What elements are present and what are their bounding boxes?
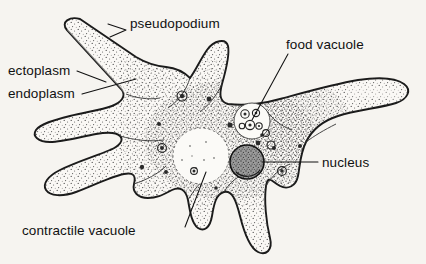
label-ectoplasm: ectoplasm bbox=[8, 63, 70, 78]
contractile-vacuole-circle bbox=[173, 128, 229, 184]
leader-pseudopodium bbox=[108, 24, 126, 37]
label-contractile-vacuole: contractile vacuole bbox=[22, 223, 136, 238]
leader-ectoplasm bbox=[77, 71, 106, 82]
diagram-canvas: pseudopodium food vacuole ectoplasm endo… bbox=[0, 0, 426, 264]
label-endoplasm: endoplasm bbox=[8, 86, 75, 101]
label-food-vacuole: food vacuole bbox=[286, 37, 364, 52]
contractile-vacuole-structure bbox=[173, 128, 229, 184]
amoeba-diagram: pseudopodium food vacuole ectoplasm endo… bbox=[0, 0, 426, 264]
label-pseudopodium: pseudopodium bbox=[130, 16, 220, 31]
nucleus-structure bbox=[230, 145, 264, 179]
food-vacuole-structure bbox=[234, 103, 270, 139]
label-nucleus: nucleus bbox=[322, 155, 369, 170]
